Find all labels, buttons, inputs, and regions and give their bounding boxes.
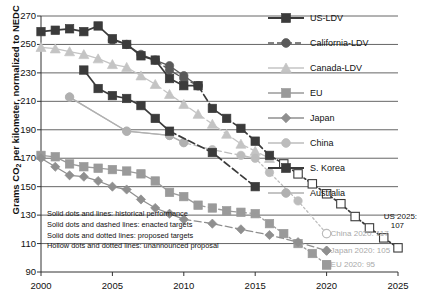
point-Canada-LDV-2004	[93, 54, 103, 63]
annotation-japan-2020: Japan 2020: 105	[331, 246, 391, 255]
endpoint-eu-2020	[322, 261, 330, 269]
point-Canada-LDV-2013	[222, 129, 232, 138]
legend-marker	[282, 39, 291, 48]
point-Australia-2002	[65, 93, 73, 101]
legend-label-text: S. Korea	[310, 162, 345, 174]
point-S. Korea-2003	[80, 66, 88, 74]
annotation-us-2025: US 2025:107	[384, 212, 417, 230]
point-Canada-LDV-2010	[179, 99, 189, 108]
point-EU-2014	[237, 208, 245, 216]
point-Canada-LDV-2005	[107, 60, 117, 69]
legend-note-2: Solid dots and dashed lines: enacted tar…	[47, 220, 219, 231]
y-tick-90: 90	[10, 267, 36, 277]
point-US-LDV-2008	[151, 56, 159, 64]
point-US-LDV-2013	[222, 114, 230, 122]
point-Japan-2014	[236, 225, 245, 234]
legend-swatch-square-icon	[266, 162, 306, 174]
point-S. Korea-2006	[122, 94, 130, 102]
point-S. Korea-2007	[137, 101, 145, 109]
y-tick-150: 150	[10, 182, 36, 192]
point-US-LDV-2006	[122, 40, 130, 48]
point-US-LDV-2021	[337, 200, 345, 208]
legend-note-3: Solid dots and dotted lines: proposed ta…	[47, 231, 219, 242]
y-tick-130: 130	[10, 210, 36, 220]
point-Canada-LDV-2007	[136, 71, 146, 80]
point-EU-2004	[94, 164, 102, 172]
point-US-LDV-2025	[394, 244, 402, 252]
point-EU-2001	[51, 153, 59, 161]
point-US-LDV-2015	[251, 137, 259, 145]
point-Japan-2001	[51, 162, 60, 171]
annotation-china-2020: China 2020: 117	[331, 229, 389, 238]
legend-swatch-square-icon	[266, 87, 306, 99]
point-EU-2017	[280, 229, 288, 237]
point-US-LDV-2000	[37, 27, 45, 35]
point-US-LDV-2007	[137, 52, 145, 60]
legend-marker	[282, 139, 291, 148]
point-US-LDV-2001	[51, 26, 59, 34]
point-EU-2019	[308, 249, 316, 257]
annotation-eu-2020: EU 2020: 95	[331, 260, 375, 269]
point-US-LDV-2010	[180, 81, 188, 89]
point-S. Korea-2004	[94, 84, 102, 92]
legend-label-text: Australia	[310, 187, 345, 199]
legend-swatch-diamond-icon	[266, 112, 306, 124]
line-EU-historical	[41, 155, 198, 205]
legend-swatch-square-icon	[266, 12, 306, 24]
y-tick-230: 230	[10, 68, 36, 78]
legend-swatch-circle-icon	[266, 187, 306, 199]
legend-marker	[282, 14, 291, 23]
endpoint-china-2020	[322, 229, 330, 237]
point-US-LDV-2009	[165, 74, 173, 82]
annotation-us-line1: US 2025:	[384, 212, 417, 221]
legend-label-text: California-LDV	[310, 37, 369, 49]
y-tick-210: 210	[10, 96, 36, 106]
legend-note-4: Hollow dots and dotted lines: unannounce…	[47, 241, 219, 252]
point-Australia-2006	[122, 127, 130, 135]
x-tick-2015: 2015	[235, 281, 275, 291]
point-EU-2016	[265, 219, 273, 227]
point-EU-2005	[108, 165, 116, 173]
annotation-us-line2: 107	[391, 221, 417, 230]
point-US-LDV-2004	[94, 22, 102, 30]
x-tick-2020: 2020	[307, 281, 347, 291]
point-EU-2007	[137, 170, 145, 178]
point-US-LDV-2003	[80, 27, 88, 35]
point-EU-2013	[222, 207, 230, 215]
legend-label-text: Canada-LDV	[310, 62, 362, 74]
y-tick-190: 190	[10, 125, 36, 135]
legend-marker	[282, 89, 291, 98]
point-S. Korea-2012	[208, 148, 216, 156]
point-EU-2002	[65, 160, 73, 168]
y-tick-270: 270	[10, 11, 36, 21]
point-EU-2008	[151, 177, 159, 185]
point-EU-2010	[180, 192, 188, 200]
point-EU-2006	[122, 167, 130, 175]
legend-swatch-triangle-icon	[266, 62, 306, 74]
x-tick-2025: 2025	[378, 281, 418, 291]
point-Canada-LDV-2014	[236, 139, 246, 148]
point-US-LDV-2022	[351, 212, 359, 220]
y-tick-250: 250	[10, 39, 36, 49]
legend-label-text: US-LDV	[310, 12, 343, 24]
point-Japan-2004	[94, 176, 103, 185]
point-S. Korea-2015	[251, 182, 259, 190]
x-tick-2000: 2000	[21, 281, 61, 291]
point-Canada-LDV-2009	[165, 89, 175, 98]
point-Japan-2002	[65, 171, 74, 180]
y-tick-170: 170	[10, 153, 36, 163]
point-California-LDV-2009	[165, 66, 173, 74]
point-EU-2003	[80, 163, 88, 171]
point-US-LDV-2002	[65, 25, 73, 33]
point-Japan-2005	[108, 182, 117, 191]
point-Japan-2007	[136, 195, 145, 204]
x-tick-2010: 2010	[164, 281, 204, 291]
series-s-korea	[80, 66, 260, 191]
legend-notes-box: Solid dots and lines: historical perform…	[47, 209, 219, 252]
legend-swatch-circle-icon	[266, 137, 306, 149]
legend-marker	[281, 113, 291, 123]
legend-marker	[282, 164, 291, 173]
legend-label-text: EU	[310, 87, 323, 99]
point-US-LDV-2014	[237, 124, 245, 132]
point-S. Korea-2008	[151, 114, 159, 122]
